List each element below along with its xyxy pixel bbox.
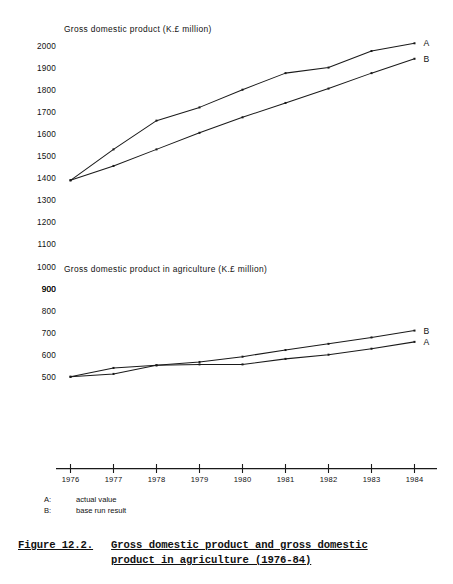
gdp-total-point-B-1977 xyxy=(113,165,115,167)
gdp-total-point-B-1976 xyxy=(70,179,72,181)
gdp-agriculture-point-B-1977 xyxy=(113,367,115,369)
gdp-total-point-A-1984 xyxy=(414,42,416,44)
gdp-agriculture-point-A-1983 xyxy=(371,348,373,350)
gdp-total-point-B-1980 xyxy=(242,116,244,118)
upper-chart-group: Gross domestic product (K.£ million)9001… xyxy=(37,24,430,294)
gdp-total-point-B-1981 xyxy=(285,102,287,104)
figure-12-2: Gross domestic product (K.£ million)9001… xyxy=(0,0,453,584)
gdp-total-ytick-1900: 1900 xyxy=(37,64,56,73)
series-legend-group: A:actual valueB:base run result xyxy=(44,495,127,515)
legend-key-A: A: xyxy=(44,495,51,504)
gdp-agriculture-point-A-1977 xyxy=(113,373,115,375)
gdp-agriculture-point-A-1981 xyxy=(285,358,287,360)
gdp-agriculture-series-label-B: B xyxy=(424,326,430,336)
gdp-agriculture-series-A xyxy=(71,342,415,377)
gdp-total-point-A-1980 xyxy=(242,89,244,91)
gdp-total-ytick-1000: 1000 xyxy=(37,263,56,272)
gdp-total-ytick-2000: 2000 xyxy=(37,42,56,51)
gdp-total-ytick-1100: 1100 xyxy=(38,240,57,249)
x-axis-label-1983: 1983 xyxy=(363,475,381,484)
gdp-total-series-label-B: B xyxy=(424,54,430,64)
gdp-agriculture-point-B-1983 xyxy=(371,336,373,338)
gdp-total-series-label-A: A xyxy=(424,38,430,48)
gdp-agriculture-title: Gross domestic product in agriculture (K… xyxy=(64,264,267,274)
chart-canvas: Gross domestic product (K.£ million)9001… xyxy=(0,0,453,584)
gdp-total-ytick-1300: 1300 xyxy=(37,196,56,205)
shared-x-axis-group: 197619771978197919801981198219831984 xyxy=(56,464,437,484)
gdp-agriculture-point-B-1984 xyxy=(414,330,416,332)
gdp-agriculture-point-A-1984 xyxy=(414,341,416,343)
gdp-total-ytick-1200: 1200 xyxy=(37,218,56,227)
x-axis-label-1981: 1981 xyxy=(277,475,295,484)
figure-caption: Figure 12.2.Gross domestic product and g… xyxy=(18,538,438,568)
gdp-agriculture-ytick-900: 900 xyxy=(42,285,57,294)
gdp-agriculture-ytick-700: 700 xyxy=(42,329,57,338)
x-axis-label-1979: 1979 xyxy=(191,475,209,484)
gdp-agriculture-point-A-1979 xyxy=(199,363,201,365)
legend-key-B: B: xyxy=(44,506,51,515)
gdp-total-point-B-1979 xyxy=(199,132,201,134)
gdp-total-point-B-1982 xyxy=(328,88,330,90)
gdp-agriculture-series-label-A: A xyxy=(424,337,430,347)
gdp-agriculture-point-B-1980 xyxy=(242,356,244,358)
gdp-total-point-A-1982 xyxy=(328,67,330,69)
figure-title-line1: Gross domestic product and gross domesti… xyxy=(111,539,368,551)
lower-chart-group: Gross domestic product in agriculture (K… xyxy=(42,264,430,382)
gdp-total-point-A-1977 xyxy=(113,148,115,150)
gdp-total-ytick-1400: 1400 xyxy=(37,174,56,183)
legend-text-B: base run result xyxy=(76,506,127,515)
gdp-total-point-A-1983 xyxy=(371,50,373,52)
x-axis-label-1976: 1976 xyxy=(62,475,80,484)
figure-number: Figure 12.2. xyxy=(18,539,93,551)
legend-text-A: actual value xyxy=(76,495,117,504)
figure-title-line2: product in agriculture (1976-84) xyxy=(111,554,311,566)
gdp-total-point-B-1984 xyxy=(414,58,416,60)
gdp-agriculture-point-A-1976 xyxy=(70,376,72,378)
gdp-agriculture-ytick-800: 800 xyxy=(42,307,57,316)
gdp-agriculture-point-B-1981 xyxy=(285,349,287,351)
x-axis-label-1984: 1984 xyxy=(406,475,424,484)
x-axis-label-1980: 1980 xyxy=(234,475,252,484)
gdp-total-ytick-1600: 1600 xyxy=(37,130,56,139)
gdp-total-point-A-1979 xyxy=(199,106,201,108)
gdp-agriculture-point-A-1978 xyxy=(156,364,158,366)
gdp-total-ytick-1800: 1800 xyxy=(37,86,56,95)
gdp-total-point-A-1981 xyxy=(285,72,287,74)
gdp-total-ytick-1700: 1700 xyxy=(37,108,56,117)
gdp-agriculture-point-B-1979 xyxy=(199,361,201,363)
gdp-total-series-B xyxy=(71,59,415,181)
gdp-agriculture-series-B xyxy=(71,331,415,377)
gdp-total-series-A xyxy=(71,43,415,180)
x-axis-label-1978: 1978 xyxy=(148,475,166,484)
gdp-total-title: Gross domestic product (K.£ million) xyxy=(64,24,212,34)
gdp-total-point-A-1978 xyxy=(156,120,158,122)
gdp-agriculture-point-A-1980 xyxy=(242,363,244,365)
x-axis-label-1982: 1982 xyxy=(320,475,338,484)
gdp-total-point-B-1978 xyxy=(156,148,158,150)
gdp-agriculture-ytick-600: 600 xyxy=(42,351,57,360)
gdp-total-ytick-1500: 1500 xyxy=(37,152,56,161)
x-axis-label-1977: 1977 xyxy=(105,475,123,484)
gdp-agriculture-ytick-500: 500 xyxy=(42,373,57,382)
gdp-agriculture-point-A-1982 xyxy=(328,354,330,356)
gdp-agriculture-point-B-1982 xyxy=(328,343,330,345)
gdp-total-point-B-1983 xyxy=(371,72,373,74)
